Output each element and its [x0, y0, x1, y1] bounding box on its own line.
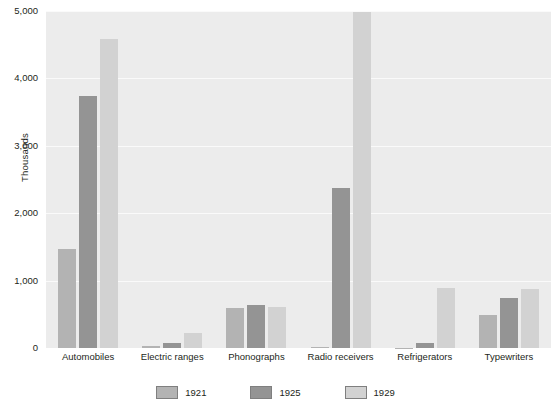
bar	[226, 308, 244, 348]
bar	[353, 12, 371, 348]
legend-swatch	[345, 386, 367, 399]
bar	[163, 343, 181, 348]
legend-item[interactable]: 1925	[250, 386, 300, 399]
bar-chart: Thousands 01,0002,0003,0004,0005,000 Aut…	[0, 0, 551, 417]
x-axis-tick-label: Refrigerators	[383, 351, 467, 363]
x-axis-tick-label: Radio receivers	[299, 351, 383, 363]
y-axis-tick-label: 5,000	[0, 6, 38, 16]
x-axis-tick-label: Electric ranges	[130, 351, 214, 363]
gridline	[46, 281, 551, 282]
gridline	[46, 146, 551, 147]
gridline	[46, 213, 551, 214]
x-axis-tick-label: Automobiles	[46, 351, 130, 363]
chart-legend: 192119251929	[0, 386, 551, 399]
bar	[521, 289, 539, 349]
y-axis-tick-label: 4,000	[0, 73, 38, 83]
bar	[437, 288, 455, 348]
bar	[311, 347, 329, 348]
y-axis-tick-label: 1,000	[0, 276, 38, 286]
bar	[247, 305, 265, 348]
bar	[332, 188, 350, 348]
legend-item[interactable]: 1929	[345, 386, 395, 399]
bar	[416, 343, 434, 348]
legend-label: 1925	[279, 387, 300, 398]
bar	[500, 298, 518, 348]
bar	[58, 249, 76, 348]
legend-swatch	[156, 386, 178, 399]
bar	[142, 346, 160, 348]
gridline	[46, 78, 551, 79]
legend-swatch	[250, 386, 272, 399]
bar	[479, 315, 497, 348]
bar	[268, 307, 286, 348]
bar	[100, 39, 118, 348]
bar	[79, 96, 97, 348]
legend-label: 1921	[185, 387, 206, 398]
gridline	[46, 11, 551, 12]
x-axis-tick-label: Typewriters	[467, 351, 551, 363]
y-axis-title: Thousands	[19, 98, 30, 218]
x-axis-tick-label: Phonographs	[214, 351, 298, 363]
legend-item[interactable]: 1921	[156, 386, 206, 399]
plot-area	[46, 11, 551, 348]
legend-label: 1929	[374, 387, 395, 398]
bar	[184, 333, 202, 348]
y-axis-tick-label: 0	[0, 343, 38, 353]
